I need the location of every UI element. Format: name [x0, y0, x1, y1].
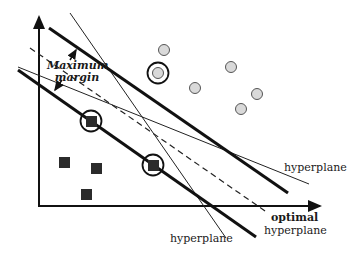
support-vector-square [86, 116, 97, 127]
class-squares [59, 111, 164, 201]
optimal-hyperplane-label: hyperplane [264, 224, 327, 237]
data-point-circle [236, 104, 247, 115]
data-point-square [81, 189, 92, 200]
data-point-square [59, 157, 70, 168]
maximum-margin-label: Maximum margin [47, 60, 107, 84]
data-point-square [91, 163, 102, 174]
data-point-circle [252, 89, 263, 100]
class-circles [148, 45, 263, 115]
hyperplane-label-right: hyperplane [284, 161, 347, 174]
data-point-circle [226, 62, 237, 73]
support-vector-circle [153, 68, 164, 79]
hyperplane-label-bottom: hyperplane [170, 232, 233, 245]
optimal-label: optimal [271, 211, 318, 224]
svm-diagram: Maximum margin hyperplane hyperplane opt… [0, 0, 356, 260]
maximum-margin-label-line2: margin [47, 72, 107, 84]
support-vector-square [148, 160, 159, 171]
margin-boundary-lower [18, 70, 256, 237]
data-point-circle [159, 45, 170, 56]
data-point-circle [190, 83, 201, 94]
